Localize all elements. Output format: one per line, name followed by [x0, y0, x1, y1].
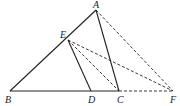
point-label-f: F	[169, 94, 177, 105]
geometry-diagram: A E B D C F	[0, 0, 180, 106]
segment-ef	[68, 40, 173, 91]
solid-segments	[10, 10, 119, 91]
point-label-e: E	[59, 29, 66, 40]
segment-ab	[10, 10, 96, 91]
point-label-b: B	[5, 94, 11, 105]
point-labels: A E B D C F	[5, 0, 177, 105]
point-label-a: A	[92, 0, 100, 10]
point-label-c: C	[117, 94, 124, 105]
segment-ed	[68, 40, 91, 91]
point-label-d: D	[87, 94, 96, 105]
